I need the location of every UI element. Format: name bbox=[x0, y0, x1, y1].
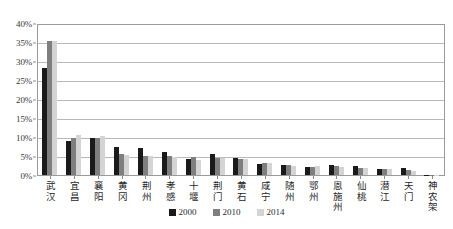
y-axis-tick-mark bbox=[33, 119, 36, 120]
x-axis-category-text: 仙桃 bbox=[355, 181, 366, 202]
y-axis-tick-label: 30% bbox=[16, 57, 32, 67]
bar bbox=[172, 157, 177, 175]
bar-group bbox=[277, 24, 301, 175]
x-axis-tick-mark bbox=[253, 176, 277, 180]
y-axis-tick-mark bbox=[33, 157, 36, 158]
x-axis-category-label: 咸宁 bbox=[253, 181, 277, 225]
bar bbox=[387, 169, 392, 175]
x-axis-category-text: 随州 bbox=[283, 181, 294, 202]
bar bbox=[148, 156, 153, 175]
bar bbox=[315, 166, 320, 175]
x-axis-category-text: 黄冈 bbox=[116, 181, 127, 202]
legend-label: 2014 bbox=[267, 207, 285, 217]
legend-item[interactable]: 2010 bbox=[213, 207, 241, 217]
y-axis-tick-mark bbox=[33, 62, 36, 63]
y-axis-tick-label: 5% bbox=[20, 152, 32, 162]
x-axis-category-text: 咸宁 bbox=[260, 181, 271, 202]
bar bbox=[52, 41, 57, 175]
x-axis-category-text: 潜江 bbox=[379, 181, 390, 202]
bar bbox=[291, 166, 296, 176]
x-axis-category-text: 荆州 bbox=[140, 181, 151, 202]
x-axis-tick-mark bbox=[277, 176, 301, 180]
bar-group bbox=[396, 24, 420, 175]
x-axis-category-label: 鄂州 bbox=[301, 181, 325, 225]
bar-group bbox=[134, 24, 158, 175]
x-axis-tick-mark bbox=[181, 176, 205, 180]
x-axis-category-text: 黄石 bbox=[236, 181, 247, 202]
bar-group bbox=[181, 24, 205, 175]
legend-swatch-icon bbox=[213, 209, 220, 216]
x-axis-category-label: 十堰 bbox=[181, 181, 205, 225]
y-axis-tick-mark bbox=[33, 100, 36, 101]
x-axis-tick-mark bbox=[396, 176, 420, 180]
x-axis-category-text: 孝感 bbox=[164, 181, 175, 202]
bar bbox=[411, 171, 416, 175]
x-axis-category-text: 武汉 bbox=[45, 181, 56, 202]
bar-group bbox=[62, 24, 86, 175]
legend-item[interactable]: 2014 bbox=[257, 207, 285, 217]
legend-label: 2010 bbox=[223, 207, 241, 217]
x-axis-tick-mark bbox=[62, 176, 86, 180]
x-axis-category-label: 黄冈 bbox=[110, 181, 134, 225]
bar bbox=[220, 158, 225, 175]
x-axis-category-label: 黄石 bbox=[229, 181, 253, 225]
x-axis-tick-mark bbox=[86, 176, 110, 180]
y-axis-tick-label: 40% bbox=[16, 19, 32, 29]
x-axis-category-text: 宜昌 bbox=[69, 181, 80, 202]
x-axis-category-text: 鄂州 bbox=[307, 181, 318, 202]
bar bbox=[339, 167, 344, 175]
legend-item[interactable]: 2000 bbox=[169, 207, 197, 217]
bar bbox=[124, 155, 129, 175]
x-axis-category-text: 荆门 bbox=[212, 181, 223, 202]
bar bbox=[267, 163, 272, 175]
x-axis-tick-mark bbox=[229, 176, 253, 180]
bar bbox=[100, 136, 105, 175]
bar bbox=[196, 160, 201, 175]
bar-chart: 0%5%10%15%20%25%30%35%40% 武汉宜昌襄阳黄冈荆州孝感十堰… bbox=[0, 0, 453, 229]
bar-group bbox=[301, 24, 325, 175]
legend-label: 2000 bbox=[179, 207, 197, 217]
y-axis-tick-label: 15% bbox=[16, 114, 32, 124]
x-axis-category-label: 天门 bbox=[396, 181, 420, 225]
x-axis-tick-mark bbox=[38, 176, 62, 180]
bar-group bbox=[229, 24, 253, 175]
y-axis-tick-mark bbox=[33, 43, 36, 44]
y-axis-tick-label: 25% bbox=[16, 76, 32, 86]
x-axis-tick-mark bbox=[301, 176, 325, 180]
x-axis-category-label: 孝感 bbox=[157, 181, 181, 225]
bar bbox=[363, 168, 368, 175]
bar-group bbox=[372, 24, 396, 175]
y-axis-tick-label: 20% bbox=[16, 95, 32, 105]
bar-group bbox=[38, 24, 62, 175]
x-axis-category-label: 武汉 bbox=[38, 181, 62, 225]
x-axis-tick-mark bbox=[325, 176, 349, 180]
x-axis-tick-mark bbox=[205, 176, 229, 180]
bar-group bbox=[348, 24, 372, 175]
x-axis-category-label: 荆门 bbox=[205, 181, 229, 225]
y-axis-tick-mark bbox=[33, 24, 36, 25]
x-axis-category-label: 神农架 bbox=[420, 181, 444, 225]
y-axis-tick-label: 35% bbox=[16, 38, 32, 48]
x-axis-category-label: 荆州 bbox=[134, 181, 158, 225]
bar-group bbox=[253, 24, 277, 175]
y-axis-tick-mark bbox=[33, 81, 36, 82]
x-axis-category-label: 随州 bbox=[277, 181, 301, 225]
y-axis-tick-label: 10% bbox=[16, 133, 32, 143]
bar-group bbox=[157, 24, 181, 175]
y-axis-tick-mark bbox=[33, 176, 36, 177]
legend-swatch-icon bbox=[169, 209, 176, 216]
x-axis-category-label: 仙桃 bbox=[348, 181, 372, 225]
bar-group bbox=[420, 24, 444, 175]
bar-group bbox=[325, 24, 349, 175]
x-axis-ticks bbox=[38, 176, 444, 180]
y-axis: 0%5%10%15%20%25%30%35%40% bbox=[0, 24, 35, 176]
bar bbox=[76, 135, 81, 175]
x-axis-category-label: 宜昌 bbox=[62, 181, 86, 225]
x-axis-tick-mark bbox=[157, 176, 181, 180]
x-axis-category-label: 襄阳 bbox=[86, 181, 110, 225]
bar-group bbox=[110, 24, 134, 175]
x-axis-tick-mark bbox=[134, 176, 158, 180]
bars-layer bbox=[38, 24, 444, 175]
x-axis-category-text: 襄阳 bbox=[92, 181, 103, 202]
chart-legend: 200020102014 bbox=[0, 207, 453, 217]
